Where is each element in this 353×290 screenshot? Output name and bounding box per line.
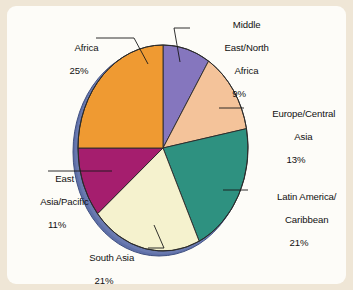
label-europe-line2: Asia xyxy=(294,131,312,142)
label-africa-line1: Africa xyxy=(74,42,98,53)
label-latam-line1: Latin America/ xyxy=(277,191,336,202)
label-europe-value: 13% xyxy=(246,154,346,165)
label-east-asia-line1: East xyxy=(55,173,74,184)
label-africa-value: 25% xyxy=(44,65,114,76)
label-east-asia-pacific: East Asia/Pacific 11% xyxy=(16,162,98,253)
label-south-asia-line1: South Asia xyxy=(89,252,134,263)
label-latin-america-caribbean: Latin America/ Caribbean 21% xyxy=(250,180,348,271)
label-africa: Africa 25% xyxy=(44,31,114,99)
label-europe-line1: Europe/Central xyxy=(272,108,335,119)
label-south-asia-value: 21% xyxy=(58,275,150,286)
pie-chart: Africa 25% Middle East/North Africa 9% E… xyxy=(0,0,353,290)
label-east-asia-line2: Asia/Pacific xyxy=(40,196,88,207)
label-latam-value: 21% xyxy=(250,237,348,248)
label-mena-line2: East/North xyxy=(225,42,269,53)
screenshot-root: Africa 25% Middle East/North Africa 9% E… xyxy=(0,0,353,290)
label-mena-line1: Middle xyxy=(233,19,261,30)
label-latam-line2: Caribbean xyxy=(285,214,328,225)
label-east-asia-value: 11% xyxy=(16,219,98,230)
label-europe-central-asia: Europe/Central Asia 13% xyxy=(246,97,346,188)
label-mena-line3: Africa xyxy=(234,65,258,76)
